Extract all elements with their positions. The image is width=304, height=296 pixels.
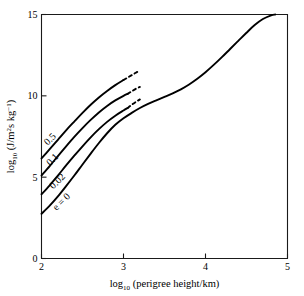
- y-tick-label-15: 15: [28, 9, 38, 20]
- y-axis-title: log10 (J/m2s kg−1): [5, 99, 19, 173]
- chart-svg: 2345051015 0.50.10.02e = 0 log10 (J/m2s …: [0, 0, 304, 296]
- x-tick-label-5: 5: [285, 261, 290, 272]
- y-tick-label-0: 0: [33, 253, 38, 264]
- plot-frame: [42, 15, 288, 259]
- curve-e-0: [42, 15, 276, 214]
- curve-dashed-0-1: [128, 87, 140, 94]
- y-tick-label-5: 5: [33, 172, 38, 183]
- x-tick-label-4: 4: [203, 261, 208, 272]
- y-tick-label-10: 10: [28, 90, 38, 101]
- x-tick-label-3: 3: [121, 261, 126, 272]
- curve-dashed-0-5: [124, 71, 140, 80]
- axes-group: [42, 15, 288, 259]
- tick-labels-group: 2345051015: [28, 9, 291, 272]
- figure-container: 2345051015 0.50.10.02e = 0 log10 (J/m2s …: [0, 0, 304, 296]
- curves-group: [42, 15, 276, 214]
- x-axis-title: log10 (perigree height/km): [110, 278, 220, 292]
- curve-label-e-0: e = 0: [50, 191, 72, 213]
- curve-dashed-0-02: [128, 99, 140, 108]
- x-tick-label-2: 2: [39, 261, 44, 272]
- curve-label-0-5: 0.5: [41, 131, 58, 148]
